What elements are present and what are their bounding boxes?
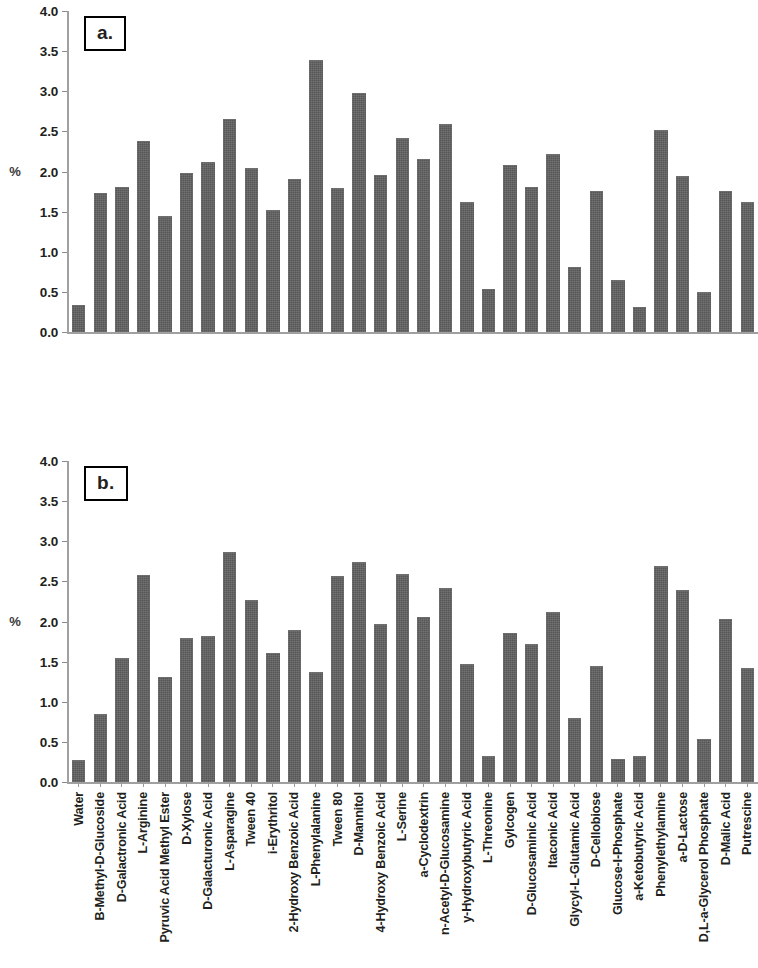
bar-slot: [241, 11, 263, 332]
x-label-slot: Itaconic Acid: [542, 790, 564, 968]
bar: [266, 653, 279, 782]
bar: [439, 124, 452, 332]
bar-slot: [391, 461, 413, 782]
y-tick-mark: [62, 581, 67, 582]
y-tick-label: 3.0: [40, 534, 58, 549]
bar: [590, 666, 603, 782]
bar: [417, 617, 430, 782]
x-category-label: D,L-a-Glycerol Phosphate: [697, 792, 711, 942]
bar: [137, 575, 150, 782]
bar-slot: [327, 461, 349, 782]
x-category-label: Glycyl-L-Glutamic Acid: [568, 792, 582, 927]
x-label-slot: i-Erythritol: [262, 790, 284, 968]
x-tick-mark: [90, 782, 112, 788]
y-tick-mark: [62, 742, 67, 743]
x-label-slot: Putrescine: [736, 790, 758, 968]
bar-slot: [435, 11, 457, 332]
bar: [525, 644, 538, 782]
bar-slot: [284, 461, 306, 782]
bar-slot: [413, 461, 435, 782]
x-tick-mark: [68, 782, 90, 788]
x-category-label: D-Mannitol: [352, 792, 366, 856]
bar-slot: [176, 11, 198, 332]
bar: [115, 658, 128, 782]
bar: [180, 173, 193, 332]
y-tick-label: 1.5: [40, 654, 58, 669]
x-label-slot: 2-Hydroxy Benzoic Acid: [284, 790, 306, 968]
bar: [201, 162, 214, 332]
bar-slot: [111, 461, 133, 782]
bar: [309, 60, 322, 332]
y-tick-label: 2.0: [40, 164, 58, 179]
bar-slot: [348, 11, 370, 332]
x-tick-mark: [715, 782, 737, 788]
bar: [676, 590, 689, 782]
y-tick-mark: [62, 252, 67, 253]
x-label-slot: a-D-Lactose: [672, 790, 694, 968]
x-tick-mark: [650, 782, 672, 788]
x-category-label: y-Hydroxybutyric Acid: [460, 792, 474, 923]
bar: [266, 210, 279, 332]
bar-slot: [176, 461, 198, 782]
bar-slot: [262, 461, 284, 782]
bar-slot: [672, 11, 694, 332]
x-tick-mark: [111, 782, 133, 788]
x-label-slot: Phenylethylamine: [650, 790, 672, 968]
bar-slot: [456, 461, 478, 782]
bar-slot: [456, 11, 478, 332]
x-label-slot: y-Hydroxybutyric Acid: [456, 790, 478, 968]
bar: [439, 588, 452, 782]
bar: [611, 280, 624, 332]
x-label-slot: L-Phenylalanine: [305, 790, 327, 968]
x-category-label: Tween 40: [244, 792, 258, 847]
bar-slot: [629, 461, 651, 782]
bar: [546, 154, 559, 332]
x-tick-mark: [693, 782, 715, 788]
x-tick-mark: [478, 782, 500, 788]
bar-slot: [607, 461, 629, 782]
panel-a: % 0.00.51.01.52.02.53.03.54.0 a.: [0, 0, 758, 400]
plot-area-a: % 0.00.51.01.52.02.53.03.54.0 a.: [0, 0, 758, 360]
y-tick-label: 2.0: [40, 614, 58, 629]
x-tick-mark: [370, 782, 392, 788]
x-category-label: D-Galactronic Acid: [115, 792, 129, 902]
bar-slot: [435, 461, 457, 782]
x-tick-mark: [284, 782, 306, 788]
bar-slot: [413, 11, 435, 332]
x-label-slot: 4-Hydroxy Benzoic Acid: [370, 790, 392, 968]
x-axis-category-labels: WaterB-Methyl-D-GlucosideD-Galactronic A…: [68, 790, 758, 968]
x-label-slot: Glucose-I-Phosphate: [607, 790, 629, 968]
x-tick-mark: [629, 782, 651, 788]
bar: [158, 677, 171, 782]
bar-slot: [90, 11, 112, 332]
y-tick-mark: [62, 501, 67, 502]
bar-slot: [348, 461, 370, 782]
y-tick-mark: [62, 292, 67, 293]
x-label-slot: a-Ketobutyric Acid: [629, 790, 651, 968]
bar-slot: [693, 11, 715, 332]
x-label-slot: Tween 40: [241, 790, 263, 968]
bar-slot: [499, 11, 521, 332]
y-tick-mark: [62, 131, 67, 132]
bar-slot: [521, 461, 543, 782]
bar: [503, 165, 516, 332]
y-tick-label: 1.5: [40, 204, 58, 219]
x-tick-mark: [672, 782, 694, 788]
bar-slot: [154, 11, 176, 332]
x-category-label: L-Asparagine: [223, 792, 237, 871]
bar-slot: [542, 461, 564, 782]
y-tick-mark: [62, 461, 67, 462]
y-tick-mark: [62, 91, 67, 92]
x-tick-mark: [133, 782, 155, 788]
bar-slot: [586, 461, 608, 782]
x-tick-mark: [305, 782, 327, 788]
x-tick-mark: [348, 782, 370, 788]
bar-slot: [715, 461, 737, 782]
bar-slot: [370, 461, 392, 782]
x-label-slot: D-Cellobiose: [586, 790, 608, 968]
y-axis-ticks-a: 0.00.51.01.52.02.53.03.54.0: [22, 0, 62, 332]
x-category-label: D-Malic Acid: [719, 792, 733, 865]
x-label-slot: B-Methyl-D-Glucoside: [90, 790, 112, 968]
bar: [697, 739, 710, 782]
bar: [72, 305, 85, 332]
